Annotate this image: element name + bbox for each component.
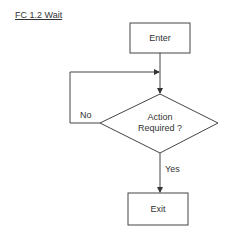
yes-label: Yes	[165, 164, 180, 174]
no-label: No	[80, 110, 92, 120]
exit-node: Exit	[128, 193, 188, 225]
decision-node: Action Required ?	[100, 94, 218, 153]
enter-node: Enter	[130, 23, 190, 53]
enter-label: Enter	[149, 33, 171, 43]
decision-label-line1: Action	[147, 112, 172, 122]
exit-label: Exit	[150, 204, 166, 214]
flowchart: Enter No Action Required ? Yes Exit	[0, 0, 231, 234]
decision-label-line2: Required ?	[138, 123, 182, 133]
